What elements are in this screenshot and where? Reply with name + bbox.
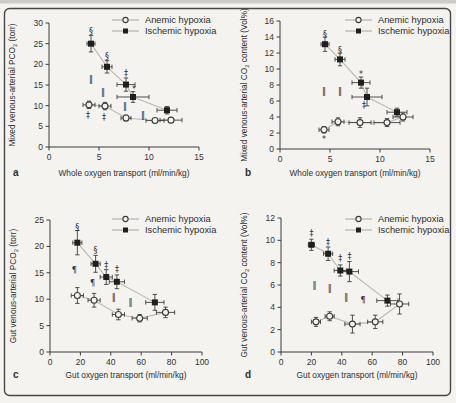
filled-square-marker (88, 41, 94, 47)
filled-square-marker (123, 228, 128, 233)
y-tick-label: 0 (38, 142, 43, 152)
plots-layer: 051015202530051015Mixed venous-arterial … (7, 8, 440, 367)
significance-marker: ‖ (338, 87, 342, 96)
y-tick-label: 16 (265, 16, 275, 26)
significance-marker: ‡ (102, 113, 106, 122)
open-circle-marker (313, 319, 319, 325)
panel-d-xaxis-label: Gut oxygen transport (ml/min/kg) (297, 370, 418, 380)
x-tick-label: 100 (426, 357, 440, 367)
filled-square-marker (337, 267, 343, 273)
y-tick-label: 5 (38, 121, 43, 131)
y-tick-label: 14 (265, 32, 275, 42)
y-tick-label: 5 (39, 321, 44, 331)
axes-a: 051015202530051015 (34, 18, 204, 162)
y-tick-label: 6 (270, 280, 275, 290)
x-tick-label: 5 (328, 154, 333, 164)
open-circle-marker (349, 321, 355, 327)
legend-c (112, 216, 139, 232)
significance-marker: ‖ (123, 102, 127, 111)
significance-marker: ‖ (129, 298, 133, 307)
legend-b (345, 17, 372, 33)
y-tick-label: 12 (266, 213, 276, 223)
significance-marker: § (323, 30, 327, 39)
y-tick-label: 6 (269, 96, 274, 106)
significance-marker: * (322, 135, 326, 144)
significance-marker: ¶ (72, 266, 77, 275)
y-tick-label: 25 (35, 215, 45, 225)
y-axis-label: Gut venous-arterial PCO2 (torr) (8, 229, 19, 344)
axes-b: 0246810121416051015 (265, 16, 435, 164)
filled-square-marker (130, 94, 136, 100)
filled-square-marker (337, 56, 343, 62)
open-circle-marker (335, 119, 341, 125)
panel-b-xaxis-label: Whole oxygen transport (ml/min/kg) (290, 168, 421, 178)
x-tick-label: 20 (307, 357, 317, 367)
x-tick-label: 10 (375, 154, 385, 164)
y-tick-label: 15 (34, 80, 44, 90)
figure-scan: 051015202530051015Mixed venous-arterial … (0, 0, 456, 403)
open-circle-marker (86, 102, 92, 108)
series-line (91, 44, 167, 111)
axes-d: 024681012020406080100 (266, 213, 441, 367)
panel-a-letter: a (13, 167, 19, 178)
significance-marker: ‡ (86, 111, 90, 120)
open-circle-marker (163, 309, 169, 315)
x-tick-label: 10 (144, 152, 154, 162)
filled-square-marker (74, 240, 80, 246)
filled-square-marker (325, 251, 331, 257)
significance-marker: § (105, 52, 109, 61)
y-axis-label: Mixed venous-arterial CO2 content (Vol%) (239, 8, 250, 162)
x-tick-label: 60 (367, 357, 377, 367)
significance-marker: ‖ (344, 293, 348, 302)
open-circle-marker (384, 120, 390, 126)
open-circle-marker (91, 297, 97, 303)
labels-layer: a Whole oxygen transport (ml/min/kg) Ane… (13, 15, 450, 380)
x-tick-label: 5 (97, 152, 102, 162)
panel-b-letter: b (245, 167, 251, 178)
filled-square-marker (358, 80, 364, 86)
y-axis-label: Gut venous-arterial CO2 content (Vol%) (239, 212, 250, 357)
significance-marker: § (94, 246, 98, 255)
filled-square-marker (152, 299, 158, 305)
subplot-c: 0510152025020406080100Gut venous-arteria… (8, 215, 209, 367)
x-tick-label: 0 (48, 357, 53, 367)
open-circle-marker (123, 216, 128, 221)
filled-square-marker (364, 94, 370, 100)
y-tick-label: 20 (35, 241, 45, 251)
x-tick-label: 100 (195, 357, 209, 367)
significance-marker: ‖ (101, 88, 105, 97)
filled-square-marker (322, 41, 328, 47)
series-anemic (71, 288, 174, 322)
significance-marker: ‡ (362, 101, 366, 110)
open-circle-marker (356, 17, 361, 22)
subplot-d: 024681012020406080100Gut venous-arterial… (239, 212, 440, 366)
significance-marker: ‡ (104, 261, 108, 270)
panel-a-xaxis-label: Whole oxygen transport (ml/min/kg) (59, 168, 190, 178)
x-tick-label: 40 (337, 357, 347, 367)
filled-square-marker (123, 82, 129, 88)
significance-marker: ‡ (347, 252, 351, 261)
filled-square-marker (356, 29, 361, 34)
open-circle-marker (356, 216, 361, 221)
series-ischemic (87, 35, 177, 114)
significance-marker: * (359, 70, 363, 79)
open-circle-marker (397, 301, 403, 307)
y-tick-label: 0 (39, 347, 44, 357)
y-tick-label: 2 (270, 325, 275, 335)
significance-marker: ¶ (361, 296, 366, 305)
significance-marker: § (75, 223, 79, 232)
x-tick-label: 15 (425, 154, 435, 164)
filled-square-marker (356, 228, 361, 233)
x-tick-label: 80 (398, 357, 408, 367)
legend-label-anemic-c: Anemic hypoxia (145, 214, 211, 224)
filled-square-marker (114, 279, 120, 285)
significance-marker: § (89, 27, 93, 36)
y-tick-label: 25 (34, 39, 44, 49)
x-tick-label: 20 (76, 357, 86, 367)
open-circle-marker (74, 293, 80, 299)
subplot-a: 051015202530051015Mixed venous-arterial … (7, 17, 204, 161)
legend-label-ischemic-b: Ischemic hypoxia (378, 26, 450, 36)
y-tick-label: 10 (266, 235, 276, 245)
y-tick-label: 0 (269, 144, 274, 154)
significance-marker: ‡ (326, 238, 330, 247)
